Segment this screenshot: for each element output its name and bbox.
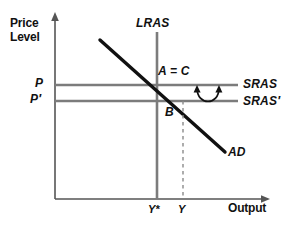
price-tick-p-prime: P′ [30,93,41,105]
ad-curve [100,40,225,152]
shift-arrow-path [197,88,219,102]
point-label-a-equals-c: A = C [158,65,190,77]
ad-label: AD [228,146,246,158]
shift-arrow-icon [194,85,223,102]
point-label-b: B [165,106,174,118]
sras-label: SRAS [243,78,277,90]
lras-label: LRAS [136,17,169,29]
y-axis-label-line1: Price [10,17,38,29]
output-tick-y: Y [178,204,185,215]
diagram-canvas [0,0,298,234]
price-tick-p: P [35,77,43,89]
as-ad-diagram: Price Level Output P P′ Y* Y LRAS SRAS S… [0,0,298,234]
y-axis-label-line2: Level [10,31,40,43]
y-axis-arrowhead [51,12,59,21]
y-axis [51,12,59,199]
sras-prime-label: SRAS′ [243,95,280,107]
x-axis-label: Output [228,202,266,214]
output-tick-y-star: Y* [148,204,160,215]
